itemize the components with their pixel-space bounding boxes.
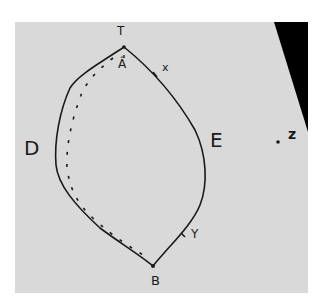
label-b: B — [151, 274, 160, 287]
point-z — [276, 140, 280, 144]
label-arrow-mark: Â — [118, 58, 126, 70]
label-t: T — [117, 25, 124, 37]
vertex-b — [151, 264, 155, 268]
tick-y — [181, 233, 185, 237]
label-z: z — [288, 127, 296, 141]
label-x: x — [162, 62, 169, 73]
dashed-path — [67, 58, 148, 258]
vertex-t — [122, 45, 126, 49]
label-y: Y — [191, 228, 198, 240]
label-d: D — [24, 138, 39, 158]
label-e: E — [210, 130, 223, 150]
curve-d — [56, 47, 153, 266]
shadow-corner — [274, 22, 308, 132]
